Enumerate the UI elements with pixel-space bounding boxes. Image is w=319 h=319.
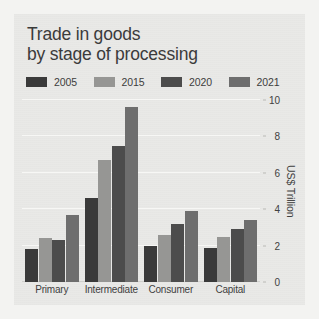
bar-capital-2020 bbox=[231, 229, 244, 282]
legend-label-2021: 2021 bbox=[257, 76, 280, 88]
x-axis-label-consumer: Consumer bbox=[141, 284, 201, 295]
bar-group-intermediate bbox=[85, 100, 139, 282]
legend-label-2020: 2020 bbox=[189, 76, 212, 88]
legend-label-2015: 2015 bbox=[122, 76, 145, 88]
x-axis-label-capital: Capital bbox=[201, 284, 261, 295]
chart-title-line-1: Trade in goods bbox=[27, 24, 140, 44]
y-axis-tickmark-10 bbox=[263, 100, 266, 101]
bar-consumer-2005 bbox=[144, 246, 157, 282]
bar-capital-2015 bbox=[217, 237, 230, 283]
y-axis-tickmark-0 bbox=[263, 282, 266, 283]
legend-swatch-2020 bbox=[161, 77, 182, 87]
legend-swatch-2005 bbox=[26, 77, 47, 87]
bar-intermediate-2021 bbox=[125, 107, 138, 282]
bar-primary-2005 bbox=[25, 249, 38, 282]
y-axis-tick-8: 8 bbox=[274, 131, 280, 142]
chart-title-line-2: by stage of processing bbox=[27, 44, 277, 64]
y-axis-tickmark-4 bbox=[263, 209, 266, 210]
legend-item-2020: 2020 bbox=[161, 76, 229, 88]
plot-area bbox=[22, 100, 260, 282]
legend-item-2021: 2021 bbox=[229, 76, 297, 88]
y-axis-tick-0: 0 bbox=[274, 277, 280, 288]
bar-capital-2021 bbox=[244, 220, 257, 282]
y-axis-tick-6: 6 bbox=[274, 167, 280, 178]
y-axis-tickmark-8 bbox=[263, 136, 266, 137]
bar-consumer-2021 bbox=[185, 211, 198, 282]
y-axis-tick-10: 10 bbox=[269, 95, 280, 106]
y-axis-tickmark-6 bbox=[263, 172, 266, 173]
bar-consumer-2020 bbox=[171, 224, 184, 282]
bar-primary-2021 bbox=[66, 215, 79, 282]
chart-title: Trade in goods by stage of processing bbox=[27, 24, 277, 64]
y-axis-title-text: US$ Trillion bbox=[285, 165, 297, 218]
legend-swatch-2021 bbox=[229, 77, 250, 87]
bar-group-consumer bbox=[144, 100, 198, 282]
bar-primary-2015 bbox=[39, 238, 52, 282]
bar-primary-2020 bbox=[52, 240, 65, 282]
legend-item-2005: 2005 bbox=[26, 76, 94, 88]
x-axis-label-intermediate: Intermediate bbox=[82, 284, 142, 295]
chart-card: Trade in goods by stage of processing 20… bbox=[14, 14, 305, 305]
bar-consumer-2015 bbox=[158, 235, 171, 282]
x-axis-labels: PrimaryIntermediateConsumerCapital bbox=[22, 284, 260, 298]
y-axis-title: US$ Trillion bbox=[282, 100, 300, 282]
legend-swatch-2015 bbox=[94, 77, 115, 87]
bar-group-capital bbox=[204, 100, 258, 282]
legend-item-2015: 2015 bbox=[94, 76, 162, 88]
bar-group-primary bbox=[25, 100, 79, 282]
bar-capital-2005 bbox=[204, 248, 217, 282]
y-axis-tick-2: 2 bbox=[274, 240, 280, 251]
chart-legend: 2005201520202021 bbox=[26, 74, 296, 90]
bar-intermediate-2015 bbox=[98, 160, 111, 282]
y-axis-tickmark-2 bbox=[263, 245, 266, 246]
y-axis-tick-4: 4 bbox=[274, 204, 280, 215]
bar-intermediate-2020 bbox=[112, 146, 125, 283]
legend-label-2005: 2005 bbox=[54, 76, 77, 88]
bar-intermediate-2005 bbox=[85, 198, 98, 282]
x-axis-label-primary: Primary bbox=[22, 284, 82, 295]
